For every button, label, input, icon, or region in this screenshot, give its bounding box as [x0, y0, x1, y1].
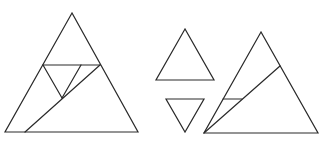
left-dissected-triangle [5, 13, 138, 132]
small-upright-triangle-outline [156, 29, 214, 80]
diagram-canvas [0, 0, 323, 143]
right-dissected-triangle [204, 32, 318, 133]
small-inverted-triangle [166, 99, 204, 132]
inner-triangle-left-edge [43, 65, 62, 98]
diagonal-cut [25, 65, 100, 132]
triangle-dissection-diagram [0, 0, 323, 143]
small-upright-triangle [156, 29, 214, 80]
small-inverted-triangle-outline [166, 99, 204, 132]
left-dissected-triangle-outline [5, 13, 138, 132]
inner-triangle-right-edge [62, 65, 81, 98]
